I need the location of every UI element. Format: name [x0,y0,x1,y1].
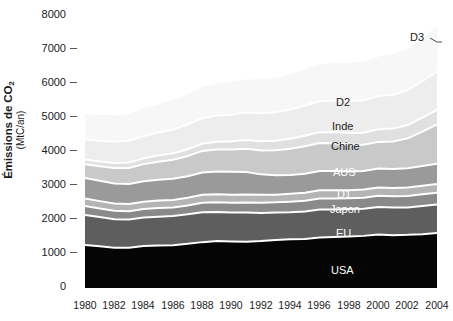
y-tick-0: 0 [20,281,66,292]
y-tick-6000: 6000 [20,77,66,88]
series-label-usa: USA [331,265,354,276]
y-tick-mark-2000 [70,218,77,219]
x-tick-1984: 1984 [123,300,163,311]
series-label-eu: EU [336,228,351,239]
x-tick-2000: 2000 [358,300,398,311]
y-tick-mark-3000 [70,184,77,185]
series-label-d3: D3 [410,31,424,43]
x-tick-1994: 1994 [270,300,310,311]
y-tick-mark-4000 [70,150,77,151]
series-label-aus: AUS [333,167,356,178]
y-axis-title-main: Émissions de CO2 [2,50,14,210]
x-tick-1990: 1990 [211,300,251,311]
x-tick-2002: 2002 [387,300,427,311]
x-tick-1998: 1998 [329,300,369,311]
y-tick-2000: 2000 [20,213,66,224]
y-tick-3000: 3000 [20,179,66,190]
plot-area [85,10,437,288]
y-tick-mark-6000 [70,82,77,83]
series-label-japon: Japon [330,204,360,215]
x-tick-1996: 1996 [299,300,339,311]
x-tick-1986: 1986 [153,300,193,311]
y-tick-mark-7000 [70,48,77,49]
y-axis-tick-labels: 8000 7000 6000 5000 4000 3000 2000 1000 … [18,0,66,321]
y-tick-mark-1000 [70,252,77,253]
y-axis-title-text: Émissions de CO [2,86,14,179]
series-label-chine: Chine [331,141,360,152]
series-label-inde: Inde [332,121,353,132]
series-label-d2: D2 [336,97,350,108]
x-tick-1988: 1988 [182,300,222,311]
y-tick-4000: 4000 [20,145,66,156]
y-tick-mark-5000 [70,116,77,117]
x-tick-1982: 1982 [94,300,134,311]
y-tick-1000: 1000 [20,247,66,258]
y-tick-7000: 7000 [20,43,66,54]
y-axis-title-subscript: 2 [7,81,16,85]
stacked-area-svg [85,10,437,288]
x-tick-1980: 1980 [65,300,105,311]
chart-figure: Émissions de CO2 (MtC/an) 8000 7000 6000… [0,0,453,321]
series-label-d1: D1 [337,189,351,200]
y-tick-5000: 5000 [20,111,66,122]
x-tick-1992: 1992 [241,300,281,311]
x-tick-2004: 2004 [417,300,453,311]
y-tick-8000: 8000 [20,9,66,20]
